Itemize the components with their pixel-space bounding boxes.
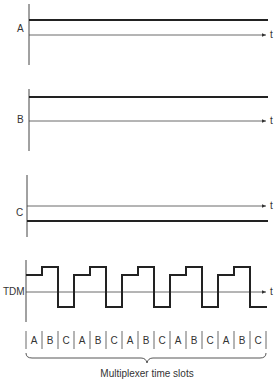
signal-b-t-label: t [270,115,273,126]
slot-label: C [158,335,165,346]
signal-b-label: B [17,114,24,125]
slot-label: A [31,335,38,346]
time-slots: A B C A B C A B C A B C A B C Multiplexe… [26,331,266,379]
slot-label: B [191,335,198,346]
signal-a-t-label: t [270,29,273,40]
slot-label: B [143,335,150,346]
tdm-plot: TDM t [3,260,273,322]
slot-label: B [239,335,246,346]
slot-label: A [79,335,86,346]
slot-label: C [206,335,213,346]
signal-a-plot: A t [17,4,273,65]
slot-label: B [47,335,54,346]
slot-label: A [127,335,134,346]
signal-a-label: A [17,23,24,34]
slot-label: A [175,335,182,346]
tdm-waveform [26,267,267,307]
signal-c-plot: C t [16,175,273,237]
slot-label: C [110,335,117,346]
signal-b-plot: B t [17,89,273,151]
tdm-label: TDM [3,286,25,297]
tdm-t-label: t [270,286,273,297]
brace-icon [26,353,266,363]
tdm-diagram: A t B t C t TDM t [0,0,278,384]
signal-c-label: C [16,207,23,218]
slot-label: C [62,335,69,346]
caption: Multiplexer time slots [100,368,193,379]
signal-c-t-label: t [270,200,273,211]
slot-label: C [254,335,261,346]
slot-label: B [95,335,102,346]
slot-label: A [223,335,230,346]
